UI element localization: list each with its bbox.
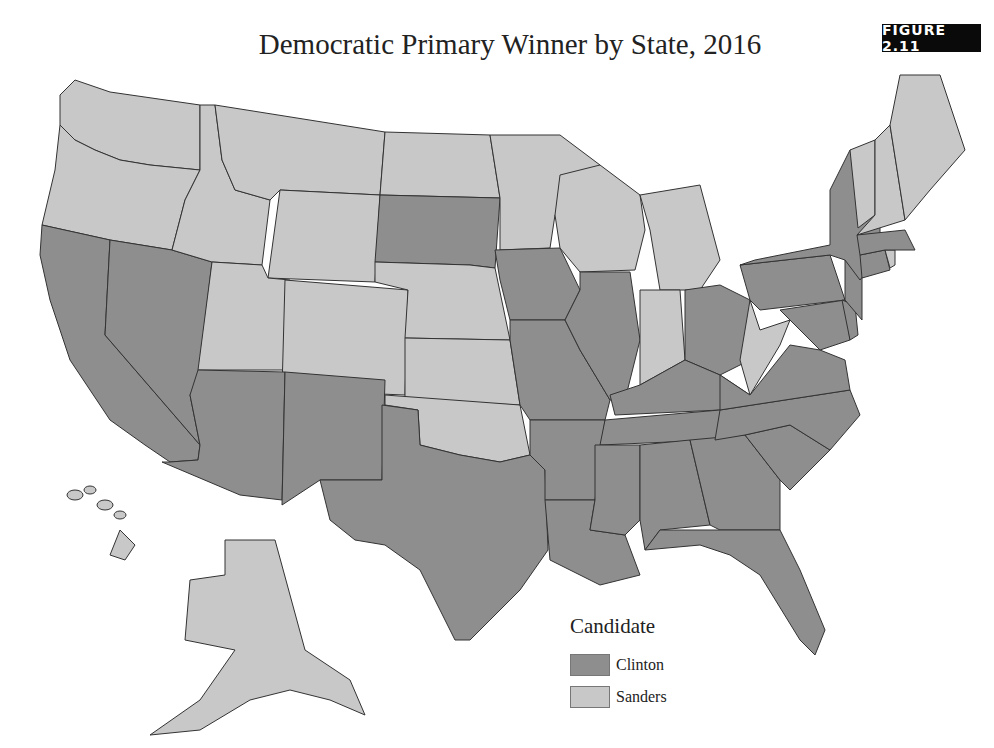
legend: Candidate Clinton Sanders xyxy=(570,614,667,713)
legend-swatch-sanders xyxy=(570,686,610,708)
state-fl xyxy=(645,530,825,655)
state-hi-island xyxy=(67,490,83,500)
legend-swatch-clinton xyxy=(570,654,610,676)
us-map xyxy=(0,0,994,748)
state-hi-island xyxy=(84,486,96,494)
state-mi xyxy=(640,185,720,290)
legend-item-clinton: Clinton xyxy=(570,649,667,681)
state-me xyxy=(890,75,965,220)
state-nd xyxy=(380,132,500,198)
legend-item-sanders: Sanders xyxy=(570,681,667,713)
legend-label-sanders: Sanders xyxy=(616,688,667,706)
state-hi xyxy=(110,530,135,560)
state-wy xyxy=(268,190,380,282)
state-wi xyxy=(555,165,645,272)
state-hi-island xyxy=(97,500,113,510)
state-md xyxy=(780,300,850,350)
state-ks xyxy=(405,338,520,405)
state-sd xyxy=(375,195,500,268)
state-mt xyxy=(215,105,385,200)
legend-title: Candidate xyxy=(570,614,667,639)
legend-label-clinton: Clinton xyxy=(616,656,664,674)
state-ak xyxy=(150,540,365,735)
state-hi-island xyxy=(114,511,126,519)
state-ia xyxy=(495,248,580,320)
state-ms xyxy=(590,445,640,535)
